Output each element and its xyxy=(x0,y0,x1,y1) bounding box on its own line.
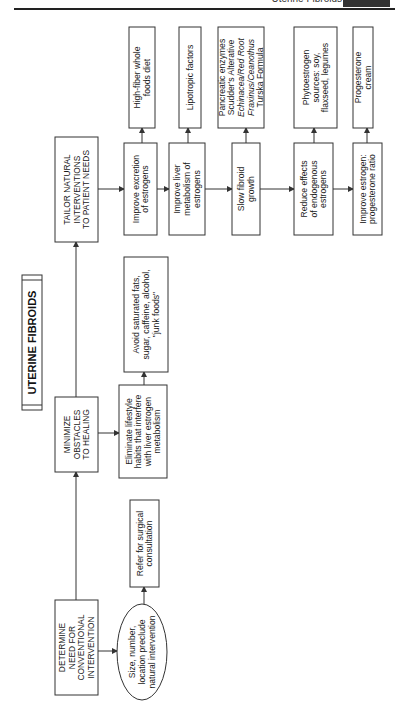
node-improve-excretion: Improve excretionof estrogens xyxy=(124,143,157,235)
node-label-line: foods diet xyxy=(142,58,152,96)
nodes: DETERMINENEED FORCONVENTIONALINTERVENTIO… xyxy=(55,27,382,700)
node-label-line: Turska Formula xyxy=(255,47,265,107)
node-label-line: metabolism of xyxy=(182,162,192,216)
node-eliminate: Eliminate lifestylehabits that interfere… xyxy=(119,385,167,478)
node-label-line: CONVENTIONAL xyxy=(76,614,86,680)
node-label-line: natural intervention xyxy=(147,615,157,688)
node-label-line: Scudder's Alterative xyxy=(226,39,236,115)
node-label-line: Refer for surgical xyxy=(135,511,145,577)
node-label-line: flaxseed, legumes xyxy=(320,43,330,112)
node-improve-liver: Improve livermetabolism ofestrogens xyxy=(169,143,205,235)
node-label-line: "junk foods" xyxy=(151,292,161,337)
node-label-line: TO HEALING xyxy=(81,409,91,460)
title-box: UTERINE FIBROIDS xyxy=(22,275,42,410)
node-label-line: cream xyxy=(363,66,373,90)
node-label-line: Slow fibroid xyxy=(236,167,246,212)
node-label-line: Lipotropic factors xyxy=(185,45,195,110)
node-label-line: habits that interfere xyxy=(133,395,143,469)
node-size-number: Size, number,location precludenatural in… xyxy=(117,604,167,700)
node-label-line: estrogens xyxy=(192,170,202,208)
node-label-line: Progesterone xyxy=(353,51,363,103)
node-label-line: estrogens xyxy=(318,170,328,208)
node-label-line: TAILOR NATURAL xyxy=(62,154,72,225)
node-label-line: Improve estrogen: xyxy=(358,154,368,223)
node-label-line: progesterone ratio xyxy=(367,154,377,224)
node-label-line: growth xyxy=(246,176,256,202)
node-label-line: location preclude xyxy=(137,619,147,684)
node-avoid: Avoid saturated fats,sugar, caffeine, al… xyxy=(124,257,168,372)
node-label-line: of estrogens xyxy=(140,165,150,212)
node-label-line: TO PATIENT NEEDS xyxy=(81,150,91,229)
node-label-line: OBSTACLES xyxy=(72,409,82,459)
node-label-line: Improve excretion xyxy=(131,155,141,224)
node-label-line: with liver estrogen xyxy=(143,397,153,467)
node-label-line: NEED FOR xyxy=(67,626,77,669)
node-label-line: sugar, caffeine, alcohol, xyxy=(141,269,151,359)
node-lipotropic: Lipotropic factors xyxy=(179,27,201,128)
node-pancreatic: Pancreatic enzymesScudder's AlterativeEc… xyxy=(217,27,265,128)
node-label-line: consultation xyxy=(144,520,154,566)
node-label-line: Reduce effects xyxy=(299,160,309,217)
node-label-line: Phytoestrogen xyxy=(301,50,311,106)
node-phytoestrogen: Phytoestrogensources: soy,flaxseed, legu… xyxy=(294,27,337,128)
node-determine: DETERMINENEED FORCONVENTIONALINTERVENTIO… xyxy=(55,600,98,695)
node-tailor: TAILOR NATURALINTERVENTIONSTO PATIENT NE… xyxy=(55,137,98,242)
node-minimize: MINIMIZEOBSTACLESTO HEALING xyxy=(55,397,98,472)
node-slow-fibroid: Slow fibroidgrowth xyxy=(232,143,260,235)
flowchart: UTERINE FIBROIDS DETERMINENEED FORCONVEN… xyxy=(0,0,395,716)
diagram-title: UTERINE FIBROIDS xyxy=(26,291,38,395)
node-label-line: MINIMIZE xyxy=(62,415,72,453)
node-progesterone: Progesteronecream xyxy=(353,27,373,128)
node-label-line: Avoid saturated fats, xyxy=(131,275,141,353)
node-reduce-effects: Reduce effectsof endogenousestrogens xyxy=(294,143,333,235)
node-label-line: High-fiber whole xyxy=(132,46,142,108)
node-label-line: sources: soy, xyxy=(311,53,321,103)
node-improve-ratio: Improve estrogen:progesterone ratio xyxy=(353,143,382,235)
node-high-fiber: High-fiber wholefoods diet xyxy=(129,27,155,128)
node-label-line: INTERVENTIONS xyxy=(72,155,82,223)
node-refer: Refer for surgicalconsultation xyxy=(130,500,159,587)
node-label-line: Size, number, xyxy=(127,626,137,679)
node-label-line: Echinacea/Red Root xyxy=(236,37,246,116)
node-label-line: Pancreatic enzymes xyxy=(217,39,227,116)
node-label-line: of endogenous xyxy=(309,161,319,218)
node-label-line: Improve liver xyxy=(172,164,182,213)
node-label-line: metabolism xyxy=(152,410,162,454)
node-label-line: INTERVENTION xyxy=(86,616,96,678)
node-label-line: Fraxinus/Ceanothus xyxy=(246,38,256,116)
node-label-line: DETERMINE xyxy=(57,622,67,672)
node-label-line: Eliminate lifestyle xyxy=(124,398,134,465)
